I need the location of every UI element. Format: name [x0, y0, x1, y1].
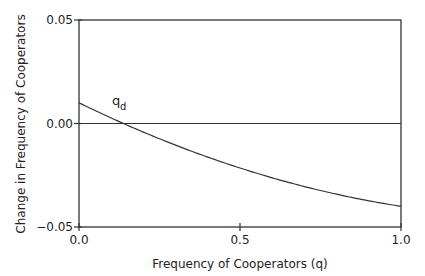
y-tick-label: 0.05: [46, 13, 73, 27]
x-axis-label: Frequency of Cooperators (q): [152, 257, 328, 271]
qd-subscript: d: [120, 101, 126, 112]
x-tick-labels: 0.00.51.0: [69, 233, 410, 247]
x-tick-label: 0.5: [230, 233, 249, 247]
y-tick-labels: −0.050.000.05: [36, 13, 73, 234]
y-axis-label: Change in Frequency of Cooperators: [14, 14, 28, 233]
data-line: [79, 103, 401, 207]
chart: 0.00.51.0 −0.050.000.05 Frequency of Coo…: [0, 0, 425, 276]
qd-annotation: q d: [112, 93, 126, 112]
x-tick-label: 1.0: [391, 233, 410, 247]
axis-ticks: [74, 20, 401, 231]
y-tick-label: 0.00: [46, 117, 73, 131]
y-tick-label: −0.05: [36, 220, 73, 234]
x-tick-label: 0.0: [69, 233, 88, 247]
